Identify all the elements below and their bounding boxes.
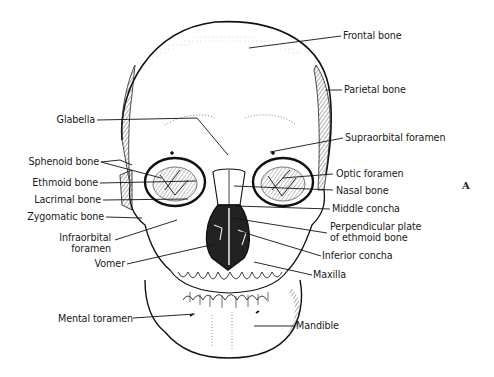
label-inferior-concha: Inferior concha (322, 250, 393, 261)
maxilla-teeth (170, 270, 288, 308)
label-mental-foramen: Mental toramen (58, 313, 133, 324)
label-supraorbital-foramen: Supraorbital foramen (345, 132, 445, 143)
label-mandible: Mandible (296, 320, 339, 331)
label-infraorbital-line2: foramen (71, 243, 111, 254)
label-optic-foramen: Optic foramen (336, 168, 404, 179)
panel-label: A (462, 180, 470, 191)
label-ethmoid-bone: Ethmoid bone (32, 177, 98, 188)
label-sphenoid-bone: Sphenoid bone (28, 156, 99, 167)
label-middle-concha: Middle concha (332, 203, 400, 214)
label-perpendicular-plate-line2: of ethmoid bone (330, 232, 408, 243)
label-zygomatic-bone: Zygomatic bone (27, 211, 104, 222)
label-infraorbital-line1: Infraorbital (59, 232, 111, 243)
lower-teeth (183, 292, 268, 308)
label-nasal-bone: Nasal bone (336, 185, 389, 196)
label-perpendicular-plate-line1: Perpendicular plate (330, 221, 421, 232)
label-frontal-bone: Frontal bone (343, 30, 402, 41)
upper-teeth (178, 272, 282, 280)
label-vomer: Vomer (95, 258, 125, 269)
mandible (145, 280, 302, 358)
label-maxilla: Maxilla (313, 269, 346, 280)
label-glabella: Glabella (57, 114, 95, 125)
label-parietal-bone: Parietal bone (344, 84, 406, 95)
label-lacrimal-bone: Lacrimal bone (34, 194, 101, 205)
